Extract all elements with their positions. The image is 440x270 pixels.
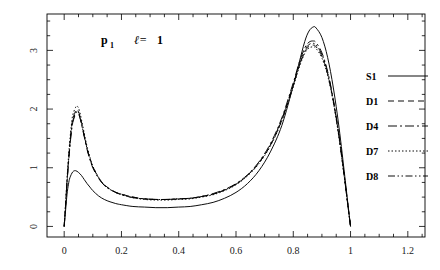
annotation-symbol: p <box>101 33 108 47</box>
plot-annotation: p 1 ℓ= 1 <box>101 33 163 50</box>
x-tick-label: 0 <box>62 245 67 256</box>
series-line-d1 <box>64 45 350 226</box>
plot-canvas: 00.20.40.60.811.20123 p 1 ℓ= 1 S1D1D4D7D… <box>0 0 440 270</box>
legend-label-d7: D7 <box>366 146 378 157</box>
series-line-d4 <box>64 41 350 226</box>
annotation-ell: ℓ= <box>134 33 147 47</box>
chart-figure: 00.20.40.60.811.20123 p 1 ℓ= 1 S1D1D4D7D… <box>0 0 440 270</box>
series-line-d8 <box>64 43 350 226</box>
annotation-subscript: 1 <box>110 41 114 50</box>
x-tick-label: 1 <box>348 245 353 256</box>
annotation-ell-value: 1 <box>157 33 163 47</box>
y-tick-label: 2 <box>29 107 40 112</box>
legend-label-d8: D8 <box>366 171 378 182</box>
x-tick-label: 0.6 <box>230 245 243 256</box>
series-layer <box>64 27 350 227</box>
y-tick-label: 0 <box>29 224 40 229</box>
x-tick-label: 0.4 <box>172 245 185 256</box>
series-line-s1 <box>64 27 350 227</box>
x-tick-label: 1.2 <box>402 245 415 256</box>
x-tick-label: 0.8 <box>287 245 300 256</box>
y-tick-label: 1 <box>29 165 40 170</box>
tick-layer: 00.20.40.60.811.20123 <box>29 14 426 256</box>
legend: S1D1D4D7D8 <box>366 71 428 182</box>
legend-label-s1: S1 <box>366 71 377 82</box>
y-tick-label: 3 <box>29 48 40 53</box>
legend-label-d1: D1 <box>366 96 378 107</box>
x-tick-label: 0.2 <box>115 245 128 256</box>
legend-label-d4: D4 <box>366 121 378 132</box>
series-line-d7 <box>64 47 350 227</box>
